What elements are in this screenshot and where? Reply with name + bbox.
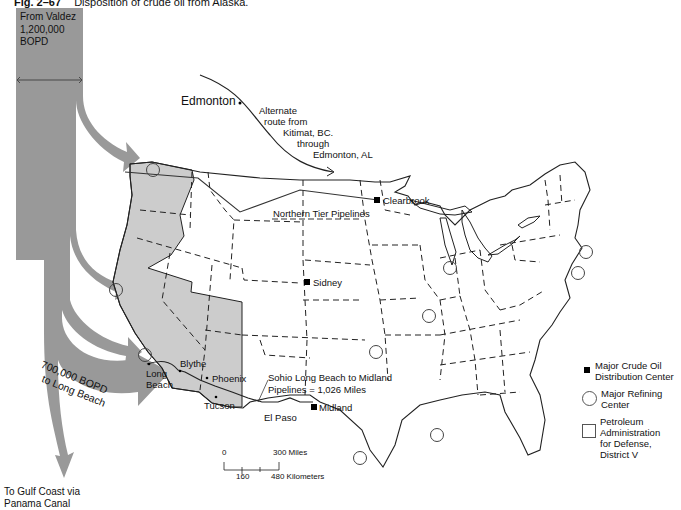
legend-text: District V	[600, 449, 660, 460]
gulf-line-1: To Gulf Coast via	[4, 486, 80, 498]
distribution-center-midland	[311, 404, 317, 410]
refining-center-new-jersey	[580, 246, 593, 259]
legend-text: Major Crude Oil	[595, 360, 674, 371]
refining-center-houston	[354, 452, 367, 465]
refining-center-chicago	[444, 262, 457, 275]
legend-text: Distribution Center	[595, 371, 674, 382]
distribution-center-clearbrook	[374, 197, 380, 203]
distribution-center-sidney	[304, 279, 310, 285]
valdez-source-label: From Valdez 1,200,000 BOPD	[20, 11, 76, 49]
scale-km: 480 Kilometers	[271, 472, 324, 481]
refining-center-louisiana	[431, 429, 444, 442]
legend-text: Center	[601, 399, 662, 410]
sohio-label-line2: Pipelines = 1,026 Miles	[268, 384, 366, 395]
legend-distribution-center: Major Crude Oil Distribution Center	[582, 360, 681, 382]
phoenix-label: Phoenix	[212, 373, 246, 384]
blythe-label: Blythe	[180, 358, 206, 369]
tucson-label: Tucson	[204, 400, 235, 411]
legend-refining-center: Major Refining Center	[582, 388, 681, 410]
filled-square-icon	[584, 367, 590, 373]
source-label: From Valdez	[20, 11, 76, 24]
midland-label: Midland	[319, 402, 352, 413]
long-beach-label-2: Beach	[146, 379, 173, 390]
scale-zero: 0	[222, 448, 226, 457]
refining-center-philadelphia	[572, 267, 585, 280]
edmonton-dot	[239, 102, 242, 105]
edmonton-label: Edmonton	[181, 96, 236, 107]
alternate-route-line1: Alternate	[259, 105, 297, 116]
sohio-label-line1: Sohio Long Beach to Midland	[268, 372, 392, 383]
michigan-peninsula	[462, 210, 492, 262]
long-beach-dot	[148, 363, 151, 366]
alternate-route-line5: Edmonton, AL	[313, 149, 373, 160]
blythe-dot	[179, 370, 182, 373]
legend-text: for Defense,	[600, 438, 660, 449]
tucson-dot	[215, 396, 218, 399]
legend-text: Administration	[600, 427, 660, 438]
lake-ontario	[518, 216, 540, 228]
sidney-label: Sidney	[313, 277, 342, 288]
source-unit: BOPD	[20, 36, 76, 49]
alternate-route-line3: Kitimat, BC.	[283, 127, 333, 138]
gulf-coast-label: To Gulf Coast via Panama Canal	[4, 486, 80, 510]
lake-erie	[488, 236, 520, 255]
alternate-route-line2: route from	[264, 116, 307, 127]
long-beach-label-1: Long	[146, 368, 167, 379]
clearbrook-label: Clearbrook	[383, 195, 429, 206]
scale-miles: 300 Miles	[273, 448, 307, 457]
open-circle-icon	[582, 391, 597, 406]
legend-text: Petroleum	[600, 416, 660, 427]
oil-disposition-map	[0, 0, 681, 510]
refining-center-oklahoma	[370, 346, 383, 359]
phoenix-dot	[206, 377, 209, 380]
source-volume: 1,200,000	[20, 24, 76, 37]
gulf-line-2: Panama Canal	[4, 498, 80, 510]
northern-tier-label: Northern Tier Pipelines	[273, 208, 370, 219]
map-legend: Major Crude Oil Distribution Center Majo…	[582, 360, 681, 466]
legend-padd-v: Petroleum Administration for Defense, Di…	[582, 416, 681, 460]
open-square-icon	[582, 424, 596, 438]
refining-center-st-louis	[423, 310, 436, 323]
scale-km-mid: 160	[236, 472, 249, 481]
legend-text: Major Refining	[601, 388, 662, 399]
alternate-route-line4: through	[297, 138, 329, 149]
el-paso-label: El Paso	[264, 412, 297, 423]
